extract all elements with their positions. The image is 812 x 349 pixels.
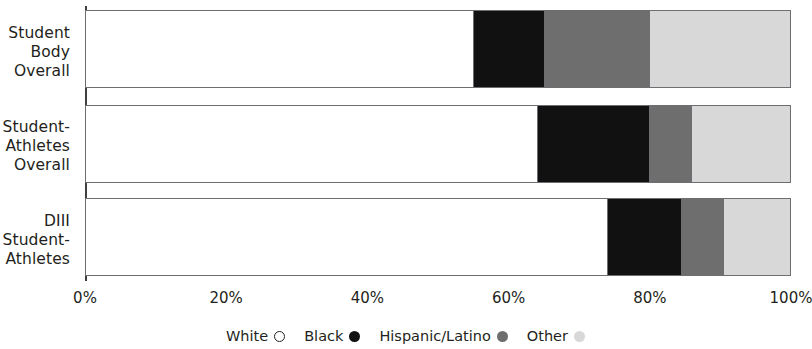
bar-segment-black — [607, 199, 681, 275]
legend-label: Black — [304, 326, 343, 346]
bar-segment-other — [723, 199, 790, 275]
y-axis-category-labels: StudentBodyOverallStudent-AthletesOveral… — [0, 6, 78, 281]
category-label-line: Student- — [0, 118, 70, 137]
legend-item-black: Black — [304, 326, 360, 346]
category-label-line: Body — [0, 43, 70, 62]
bar-segment-white — [86, 199, 607, 275]
category-label-0: StudentBodyOverall — [0, 24, 70, 81]
legend-swatch-icon — [497, 331, 508, 342]
bar-segment-white — [86, 106, 537, 182]
bar-segment-other — [691, 106, 790, 182]
legend-swatch-icon — [574, 331, 585, 342]
legend-label: Hispanic/Latino — [379, 326, 490, 346]
bar-segment-black — [473, 11, 543, 87]
x-tick-label: 80% — [633, 288, 666, 308]
category-label-line: Athletes — [0, 250, 70, 269]
category-label-1: Student-AthletesOverall — [0, 118, 70, 175]
bar-track — [85, 10, 791, 88]
chart-legend: WhiteBlackHispanic/LatinoOther — [0, 324, 811, 348]
plot-area — [85, 6, 791, 281]
legend-item-hispanic-latino: Hispanic/Latino — [379, 326, 507, 346]
category-label-2: DIIIStudent-Athletes — [0, 212, 70, 269]
x-tick-label: 0% — [73, 288, 97, 308]
x-tick-label: 60% — [492, 288, 525, 308]
bar-segment-hispanic-latino — [649, 106, 691, 182]
x-tick-label: 40% — [351, 288, 384, 308]
bar-track — [85, 198, 791, 276]
bar-segment-black — [537, 106, 650, 182]
legend-label: Other — [527, 326, 568, 346]
category-label-line: Student- — [0, 231, 70, 250]
bar-track — [85, 105, 791, 183]
legend-item-white: White — [226, 326, 285, 346]
category-label-line: Overall — [0, 62, 70, 81]
legend-label: White — [226, 326, 268, 346]
bar-segment-white — [86, 11, 473, 87]
x-tick-label: 20% — [210, 288, 243, 308]
bar-row — [85, 10, 791, 88]
legend-item-other: Other — [527, 326, 585, 346]
category-label-line: DIII — [0, 212, 70, 231]
category-label-line: Overall — [0, 156, 70, 175]
legend-swatch-icon — [274, 331, 285, 342]
x-tick-label: 100% — [770, 288, 812, 308]
category-label-line: Student — [0, 24, 70, 43]
bar-segment-hispanic-latino — [681, 199, 723, 275]
x-axis-tick-labels: 0%20%40%60%80%100% — [85, 288, 791, 310]
bar-segment-hispanic-latino — [544, 11, 650, 87]
legend-swatch-icon — [349, 331, 360, 342]
category-label-line: Athletes — [0, 137, 70, 156]
bar-segment-other — [649, 11, 790, 87]
bar-row — [85, 198, 791, 276]
bar-row — [85, 105, 791, 183]
